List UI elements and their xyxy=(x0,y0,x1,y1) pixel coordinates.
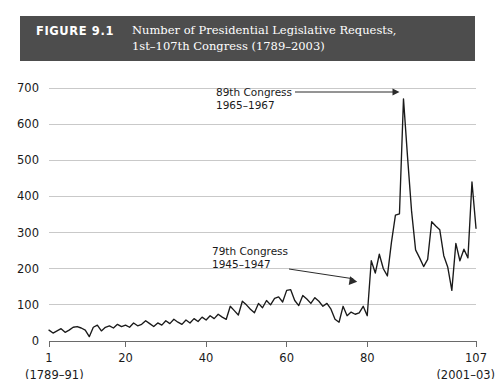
annotation-79th-line-1: 79th Congress xyxy=(212,245,288,257)
y-tick-label: 100 xyxy=(17,298,39,312)
y-tick-label: 300 xyxy=(17,226,39,240)
line-chart: 0100200300400500600700 120406080107 89th… xyxy=(0,70,495,379)
figure-header: FIGURE 9.1 Number of Presidential Legisl… xyxy=(20,16,475,61)
figure-title-line-1: Number of Presidential Legislative Reque… xyxy=(132,23,397,37)
y-tick-label: 600 xyxy=(17,117,39,131)
y-axis-tick-labels: 0100200300400500600700 xyxy=(17,81,39,348)
gridlines-group xyxy=(49,88,476,305)
data-series-line xyxy=(49,99,476,337)
x-axis-ticks xyxy=(49,341,476,347)
x-tick-label: 60 xyxy=(279,351,294,365)
x-tick-label: 80 xyxy=(360,351,375,365)
annotation-89th-congress: 89th Congress 1965–1967 xyxy=(216,86,399,111)
annotation-89th-line-2: 1965–1967 xyxy=(216,99,275,111)
x-tick-label: 20 xyxy=(118,351,133,365)
figure-title: Number of Presidential Legislative Reque… xyxy=(132,23,397,54)
x-axis-sublabel-left: (1789–91) xyxy=(25,368,84,379)
x-axis-tick-labels: 120406080107 xyxy=(45,351,487,365)
chart-plot-area: 0100200300400500600700 120406080107 89th… xyxy=(0,70,495,379)
figure-title-line-2: 1st–107th Congress (1789–2003) xyxy=(132,39,397,55)
annotation-79th-line-2: 1945–1947 xyxy=(212,258,271,270)
x-tick-label: 40 xyxy=(199,351,214,365)
annotation-89th-line-1: 89th Congress xyxy=(216,86,292,98)
y-tick-label: 500 xyxy=(17,153,39,167)
annotation-79th-arrow-line xyxy=(289,269,353,279)
annotation-79th-arrow-head xyxy=(349,276,357,285)
x-tick-label: 107 xyxy=(465,351,487,365)
x-tick-label: 1 xyxy=(45,351,52,365)
annotation-79th-congress: 79th Congress 1945–1947 xyxy=(212,245,357,285)
annotation-89th-arrow-head xyxy=(392,88,399,95)
y-tick-label: 0 xyxy=(32,334,39,348)
y-tick-label: 700 xyxy=(17,81,39,95)
y-tick-label: 400 xyxy=(17,189,39,203)
y-tick-label: 200 xyxy=(17,262,39,276)
figure-container: FIGURE 9.1 Number of Presidential Legisl… xyxy=(0,0,495,379)
x-axis-sublabel-right: (2001–03) xyxy=(436,368,495,379)
figure-number-label: FIGURE 9.1 xyxy=(36,23,114,38)
